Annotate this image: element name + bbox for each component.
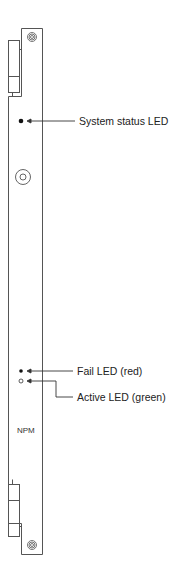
system-status-led-icon xyxy=(19,119,24,124)
fail-led-icon xyxy=(19,369,23,373)
active-led-icon xyxy=(19,379,23,383)
bottom-screw-icon xyxy=(28,541,37,550)
top-screw-icon xyxy=(28,33,37,42)
fail-led-label: Fail LED (red) xyxy=(77,366,142,377)
top-ejector-handle xyxy=(9,41,20,93)
panel-outline xyxy=(9,29,43,555)
module-name-label: NPM xyxy=(17,427,35,435)
npm-module-diagram xyxy=(0,0,172,567)
active-led-label: Active LED (green) xyxy=(77,392,166,403)
panel-knob-icon xyxy=(16,170,31,185)
bottom-ejector-handle xyxy=(9,485,20,537)
system-status-led-label: System status LED xyxy=(79,116,168,127)
